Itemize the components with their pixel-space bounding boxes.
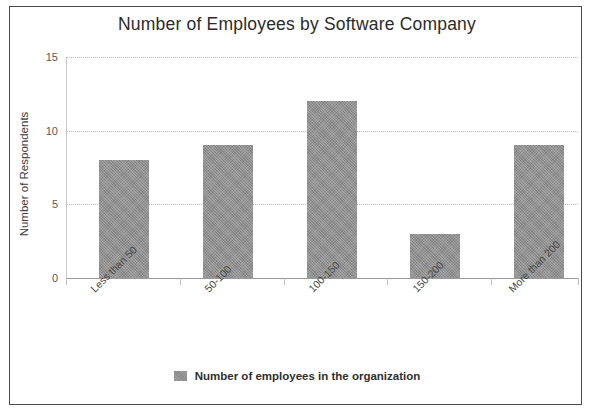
chart-figure: Number of Employees by Software Company …: [0, 0, 594, 412]
plot-area: [66, 57, 578, 278]
y-tick-label-0: 0: [30, 272, 58, 284]
x-tick-3: [387, 278, 388, 285]
chart-title: Number of Employees by Software Company: [0, 14, 594, 35]
gridline-15: [66, 57, 578, 58]
y-axis-ticks: 15 10 5 0: [26, 57, 58, 278]
y-tick-label-10: 10: [30, 125, 58, 137]
chart-legend: Number of employees in the organization: [0, 370, 594, 382]
y-tick-label-15: 15: [30, 51, 58, 63]
legend-swatch-icon: [174, 371, 187, 381]
bar-50-100: [203, 145, 253, 278]
legend-label: Number of employees in the organization: [195, 370, 421, 382]
x-tick-4: [491, 278, 492, 285]
y-axis-title: Number of Respondents: [18, 84, 30, 264]
y-tick-label-5: 5: [30, 198, 58, 210]
x-tick-1: [180, 278, 181, 285]
x-tick-5: [578, 278, 579, 285]
x-tick-0: [66, 278, 67, 285]
bar-100-150: [307, 101, 357, 278]
x-axis-labels: Less than 50 50-100 100-150 150-200 More…: [66, 286, 578, 356]
x-tick-2: [284, 278, 285, 285]
